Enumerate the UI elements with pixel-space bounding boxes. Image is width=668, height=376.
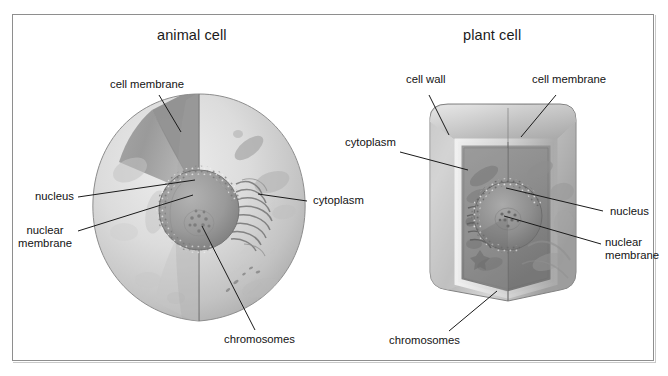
label-plant-cell-membrane: cell membrane [532,73,606,86]
panel-title-animal-cell: animal cell [157,27,227,43]
label-plant-nuclear-membrane-line1: nuclear [605,236,663,249]
label-animal-nuclear-membrane-line1: nuclear [14,224,76,237]
panel-title-plant-cell: plant cell [463,27,521,43]
label-animal-cell-membrane: cell membrane [110,78,184,91]
label-animal-nuclear-membrane: nuclear membrane [14,224,76,250]
label-plant-nuclear-membrane-line2: membrane [605,249,663,262]
label-animal-nuclear-membrane-line2: membrane [14,237,76,250]
diagram-canvas: animal cell plant cell [0,0,668,376]
plant-cell-illustration [404,96,600,310]
label-plant-chromosomes: chromosomes [389,334,460,347]
label-animal-nucleus: nucleus [22,190,74,203]
label-animal-cytoplasm: cytoplasm [313,194,364,207]
label-plant-cytoplasm: cytoplasm [345,136,396,149]
label-animal-chromosomes: chromosomes [224,333,295,346]
label-plant-nucleus: nucleus [610,205,649,218]
label-plant-cell-wall: cell wall [406,73,446,86]
label-plant-nuclear-membrane: nuclear membrane [605,236,663,262]
animal-cell-illustration [86,92,312,324]
